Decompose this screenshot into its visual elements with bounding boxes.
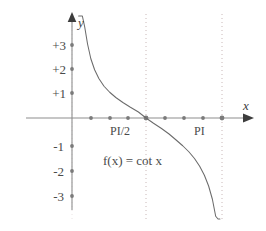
y-tick-dot-minus3	[70, 194, 74, 198]
y-tick-label-minus3: -3	[38, 190, 64, 203]
x-axis-arrowhead	[243, 114, 254, 123]
x-tick-dot	[89, 116, 93, 120]
x-tick-label-pi: PI	[194, 125, 205, 137]
x-tick-dot	[201, 116, 205, 120]
y-axis-arrowhead	[68, 12, 77, 22]
y-axis-label: y	[78, 16, 84, 29]
y-tick-label-minus2: -2	[38, 165, 64, 178]
y-tick-dot-plus1	[70, 91, 74, 95]
y-tick-dot-plus2	[70, 67, 74, 71]
x-tick-dot	[182, 116, 186, 120]
y-tick-dot-plus3	[70, 43, 74, 47]
function-label: f(x) = cot x	[103, 154, 162, 167]
y-tick-label-plus3: +3	[38, 39, 66, 52]
y-tick-label-plus1: +1	[38, 87, 66, 100]
x-tick-dot-pi	[220, 116, 225, 121]
cotangent-graph-figure: y x +3 +2 +1 -1 -2 -3 PI/2 PI f(x) = cot…	[0, 0, 266, 231]
y-tick-dot-minus1	[70, 144, 74, 148]
y-tick-label-plus2: +2	[38, 63, 66, 76]
x-tick-dot	[126, 116, 130, 120]
y-tick-label-minus1: -1	[38, 140, 64, 153]
x-tick-dot	[163, 116, 167, 120]
x-tick-dot	[108, 116, 112, 120]
x-tick-label-pi-over-2: PI/2	[110, 125, 130, 137]
y-tick-dot-minus2	[70, 169, 74, 173]
x-axis-label: x	[243, 99, 249, 112]
